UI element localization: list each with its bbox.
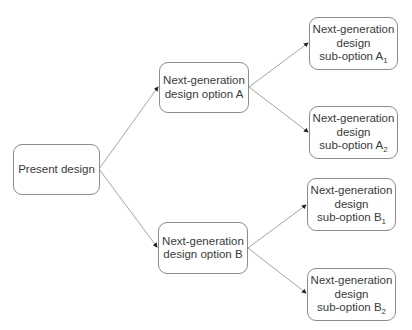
node-label-line2: design [335,198,369,212]
node-sub-option-b2: Next-generation design sub-option B2 [307,268,396,321]
node-present-design: Present design [13,144,100,195]
node-label-line1: Next-generation [162,235,244,249]
node-label-line2: design [335,288,369,302]
node-option-a: Next-generation design option A [159,62,249,113]
edge-present-to-option-a [99,87,158,169]
edge-option-b-to-sub-b2 [248,248,306,293]
node-label-line2: design option A [165,88,244,102]
subscript: 1 [382,217,386,226]
subscript: 1 [383,56,387,65]
node-label-line3: sub-option B1 [317,211,386,225]
node-sub-option-a2: Next-generation design sub-option A2 [309,106,398,159]
subscript: 2 [382,307,386,316]
edge-option-a-to-sub-a1 [249,43,308,87]
node-label-line3: sub-option B2 [317,301,386,315]
node-label: Present design [18,163,95,177]
edge-option-a-to-sub-a2 [249,87,308,132]
node-label-line1: Next-generation [311,184,393,198]
node-option-b: Next-generation design option B [158,222,248,274]
edge-present-to-option-b [99,169,157,247]
node-label-line1: Next-generation [313,23,395,37]
edge-option-b-to-sub-b1 [248,205,306,248]
node-label-line2: design [337,126,371,140]
node-sub-option-a1: Next-generation design sub-option A1 [309,17,398,70]
node-label-line3: sub-option A1 [319,50,387,64]
node-label-line1: Next-generation [311,274,393,288]
node-sub-option-b1: Next-generation design sub-option B1 [307,178,396,231]
node-label-line1: Next-generation [163,74,245,88]
node-label-line3: sub-option A2 [319,139,387,153]
node-label-line1: Next-generation [313,112,395,126]
node-label-line2: design option B [163,248,242,262]
subscript: 2 [383,145,387,154]
node-label-line2: design [337,37,371,51]
